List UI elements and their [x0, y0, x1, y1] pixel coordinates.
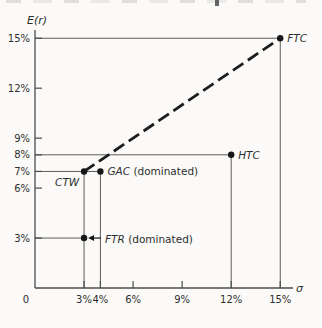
x-tick-label-6%: 6%: [125, 294, 141, 305]
x-tick-label-9%: 9%: [174, 294, 190, 305]
point-label-HTC: HTC: [238, 149, 260, 161]
point-label-CTW: CTW: [55, 176, 80, 188]
y-tick-label-8%: 8%: [14, 149, 30, 160]
risk-return-chart: 3%6%7%8%9%12%15%03%4%6%9%12%15%E(r)σFTCH…: [0, 0, 322, 328]
y-tick-label-9%: 9%: [14, 133, 30, 144]
y-tick-label-12%: 12%: [8, 83, 30, 94]
y-axis-label: E(r): [27, 14, 47, 27]
y-tick-label-3%: 3%: [14, 233, 30, 244]
point-label-FTR-note: (dominated): [125, 233, 193, 245]
data-point-HTC: [228, 152, 234, 158]
label-arrowhead-FTR: [88, 235, 94, 241]
y-tick-label-15%: 15%: [8, 33, 30, 44]
data-point-GAC: [97, 168, 103, 174]
point-label-GAC-note: (dominated): [130, 165, 198, 177]
x-tick-label-15%: 15%: [269, 294, 291, 305]
point-label-FTC: FTC: [287, 32, 307, 44]
y-tick-label-7%: 7%: [14, 166, 30, 177]
data-point-FTR: [81, 235, 87, 241]
x-axis-label: σ: [296, 282, 304, 295]
x-tick-label-12%: 12%: [220, 294, 242, 305]
scanned-chart-page: 3%6%7%8%9%12%15%03%4%6%9%12%15%E(r)σFTCH…: [0, 0, 322, 328]
point-label-GAC: GAC (dominated): [107, 165, 198, 177]
x-tick-label-4%: 4%: [92, 294, 108, 305]
data-point-CTW: [81, 168, 87, 174]
data-point-FTC: [277, 35, 283, 41]
y-tick-label-6%: 6%: [14, 183, 30, 194]
point-label-FTR: FTR (dominated): [105, 233, 193, 245]
x-tick-label-3%: 3%: [76, 294, 92, 305]
x-tick-label-0: 0: [23, 294, 29, 305]
